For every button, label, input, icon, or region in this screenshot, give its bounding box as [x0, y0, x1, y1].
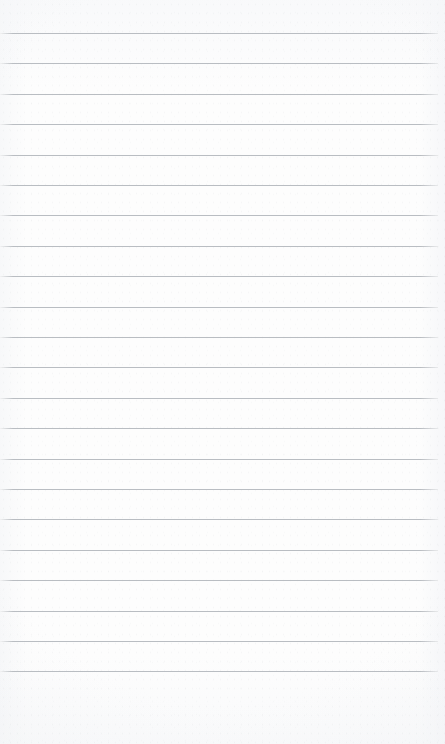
- rule-line: [0, 337, 438, 338]
- notepad-page: [0, 0, 445, 744]
- ruled-writing-area[interactable]: [0, 0, 445, 744]
- rule-line: [0, 33, 438, 34]
- rule-line: [0, 124, 438, 125]
- rule-line: [0, 580, 438, 581]
- bottom-margin-area: [0, 672, 445, 744]
- rule-line: [0, 611, 438, 612]
- rule-line: [0, 489, 438, 490]
- rule-line: [0, 550, 438, 551]
- rule-line: [0, 641, 438, 642]
- rule-line: [0, 94, 438, 95]
- rule-line: [0, 428, 438, 429]
- rule-line: [0, 367, 438, 368]
- rule-line: [0, 63, 438, 64]
- rule-line: [0, 185, 438, 186]
- rule-line: [0, 246, 438, 247]
- rule-line: [0, 398, 438, 399]
- rule-line: [0, 307, 438, 308]
- rule-line: [0, 459, 438, 460]
- rule-line: [0, 276, 438, 277]
- rule-line: [0, 215, 438, 216]
- rule-line: [0, 519, 438, 520]
- rule-line: [0, 155, 438, 156]
